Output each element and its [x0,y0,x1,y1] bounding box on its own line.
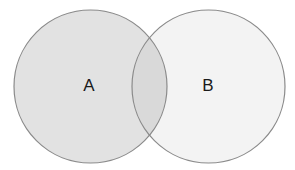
set-a-label: A [83,76,95,95]
venn-diagram: A B [0,0,295,170]
set-b-label: B [202,76,213,95]
